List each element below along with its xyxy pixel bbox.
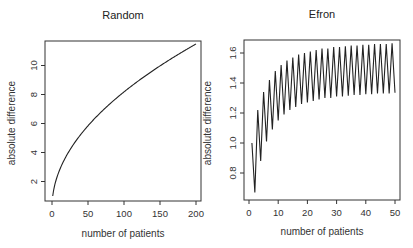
x-tick-label: 20	[302, 207, 313, 218]
efron-y-label: absolute difference	[202, 80, 213, 165]
y-tick-label: 2	[28, 179, 39, 184]
x-tick-label: 30	[331, 207, 342, 218]
efron-x-label: number of patients	[281, 226, 364, 237]
x-tick-label: 100	[116, 208, 132, 219]
efron-y-axis: 0.81.01.21.41.6	[227, 46, 244, 179]
random-y-axis: 246810	[28, 60, 45, 184]
efron-series-line	[252, 43, 395, 192]
random-plot: Random 050100150200 246810 number of pat…	[6, 9, 204, 239]
random-series-line	[53, 44, 196, 196]
y-tick-label: 1.4	[227, 76, 238, 89]
x-tick-label: 50	[390, 207, 401, 218]
random-plot-title: Random	[102, 9, 144, 21]
x-tick-label: 40	[361, 207, 372, 218]
efron-plot-title: Efron	[309, 8, 335, 20]
x-tick-label: 150	[152, 208, 168, 219]
x-tick-label: 10	[273, 207, 284, 218]
x-tick-label: 50	[83, 208, 94, 219]
figure: Random 050100150200 246810 number of pat…	[0, 0, 413, 248]
random-plot-frame	[45, 41, 201, 201]
y-tick-label: 6	[28, 121, 39, 126]
y-tick-label: 1.6	[227, 46, 238, 59]
random-y-label: absolute difference	[6, 80, 17, 165]
efron-x-axis: 01020304050	[246, 200, 400, 218]
y-tick-label: 8	[28, 92, 39, 97]
x-tick-label: 200	[188, 208, 204, 219]
random-x-label: number of patients	[82, 228, 165, 239]
y-tick-label: 10	[28, 60, 39, 71]
random-x-axis: 050100150200	[49, 201, 204, 219]
x-tick-label: 0	[49, 208, 54, 219]
y-tick-label: 1.2	[227, 106, 238, 119]
efron-plot: Efron 01020304050 0.81.01.21.41.6 number…	[202, 8, 400, 237]
y-tick-label: 0.8	[227, 166, 238, 179]
y-tick-label: 1.0	[227, 136, 238, 149]
y-tick-label: 4	[28, 150, 39, 155]
x-tick-label: 0	[246, 207, 251, 218]
